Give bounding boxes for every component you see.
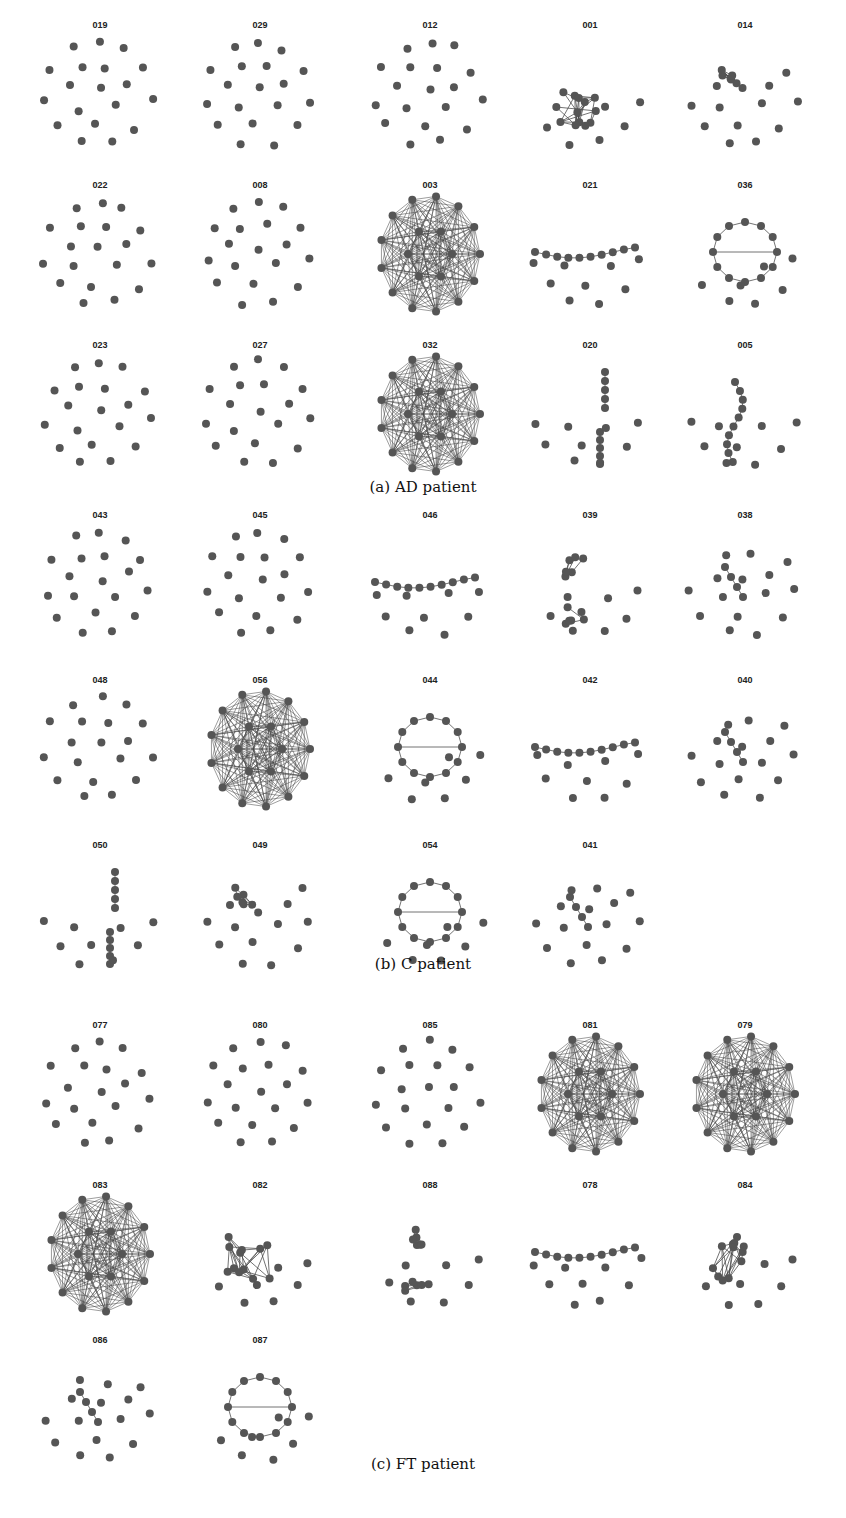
graph-node (303, 1259, 311, 1267)
graph-node (470, 383, 478, 391)
graph-node (225, 240, 233, 248)
graph-node (398, 758, 406, 766)
graph-node (410, 769, 418, 777)
graph-node (88, 1119, 96, 1127)
graph-node (581, 122, 589, 130)
network-graph: 084 (665, 1180, 825, 1330)
graph-node (203, 100, 211, 108)
graph-node (530, 1261, 538, 1269)
graph-node (280, 570, 288, 578)
graph-node (725, 297, 733, 305)
graph-node (756, 794, 764, 802)
graph-node (425, 1280, 433, 1288)
graph-node (46, 717, 54, 725)
graph-node (553, 748, 561, 756)
graph-node (762, 589, 770, 597)
graph-node (406, 63, 414, 71)
graph-node (237, 629, 245, 637)
graph-node (274, 920, 282, 928)
graph-node (592, 107, 600, 115)
graph-node (147, 414, 155, 422)
graph-node (97, 738, 105, 746)
graph-node (236, 381, 244, 389)
graph-node (591, 94, 599, 102)
graph-node (263, 1241, 271, 1249)
graph-node (449, 578, 457, 586)
graph-node (569, 627, 577, 635)
graph-node (122, 701, 130, 709)
graph-node (609, 743, 617, 751)
graph-node (70, 262, 78, 270)
graph-label: 042 (510, 675, 670, 685)
graph-node (104, 1380, 112, 1388)
graph-node (272, 259, 280, 267)
graph-node (215, 608, 223, 616)
graph-node (580, 616, 588, 624)
graph-node (774, 776, 782, 784)
graph-node (437, 433, 445, 441)
graph-node (236, 225, 244, 233)
graph-node (225, 1233, 233, 1241)
graph-node (280, 535, 288, 543)
graph-node (595, 136, 603, 144)
graph-node (633, 587, 641, 595)
graph-node (296, 224, 304, 232)
graph-node (709, 248, 717, 256)
graph-node (587, 748, 595, 756)
graph-node (124, 1396, 132, 1404)
graph-node (415, 387, 423, 395)
network-graph: 039 (510, 510, 670, 660)
network-graph: 085 (350, 1020, 510, 1170)
graph-node (723, 1036, 731, 1044)
graph-node (543, 124, 551, 132)
graph-node (601, 103, 609, 111)
graph-node (294, 1281, 302, 1289)
graph-node (454, 202, 462, 210)
graph-node (719, 1277, 727, 1285)
graph-node (609, 1248, 617, 1256)
graph-node (239, 1064, 247, 1072)
graph-node (80, 792, 88, 800)
network-graph: 042 (510, 675, 670, 825)
graph-node (226, 901, 234, 909)
graph-node (106, 944, 114, 952)
graph-label: 023 (20, 340, 180, 350)
graph-label: 039 (510, 510, 670, 520)
graph-node (601, 377, 609, 385)
graph-node (713, 737, 721, 745)
graph-node (758, 99, 766, 107)
graph-node (421, 122, 429, 130)
graph-node (382, 1124, 390, 1132)
graph-node (442, 934, 450, 942)
graph-node (304, 1099, 312, 1107)
graph-node (752, 1113, 760, 1121)
graph-node (441, 631, 449, 639)
graph-node (704, 1052, 712, 1060)
graph-node (136, 556, 144, 564)
graph-label: 043 (20, 510, 180, 520)
graph-node (752, 138, 760, 146)
graph-node (726, 139, 734, 147)
graph-node (377, 236, 385, 244)
graph-node (408, 304, 416, 312)
graph-label: 036 (665, 180, 825, 190)
graph-node (293, 121, 301, 129)
graph-node (692, 1104, 700, 1112)
graph-node (256, 83, 264, 91)
graph-node (425, 1083, 433, 1091)
graph-node (283, 240, 291, 248)
graph-node (140, 1277, 148, 1285)
graph-node (465, 1281, 473, 1289)
graph-node (470, 277, 478, 285)
graph-node (564, 254, 572, 262)
network-graph: 012 (350, 20, 510, 170)
graph-node (204, 1099, 212, 1107)
graph-node (542, 775, 550, 783)
panel-caption: (a) AD patient (0, 478, 846, 496)
graph-node (226, 400, 234, 408)
graph-node (412, 1226, 420, 1234)
graph-label: 081 (510, 1020, 670, 1030)
graph-node (296, 553, 304, 561)
graph-node (300, 67, 308, 75)
graph-node (441, 794, 449, 802)
